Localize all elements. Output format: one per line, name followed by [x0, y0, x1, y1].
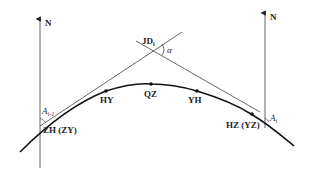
azimuth-arc-left	[40, 118, 46, 123]
hz-label: HZ (YZ)	[226, 120, 260, 130]
point-hy	[104, 89, 108, 93]
north-label-right: N	[270, 12, 277, 22]
jd-label: JDi	[142, 36, 155, 47]
north-label-left: N	[45, 18, 52, 28]
alpha-label: α	[167, 45, 172, 55]
hy-label: HY	[100, 95, 114, 105]
zh-label: ZH (ZY)	[43, 125, 77, 135]
tangent-line-left	[40, 32, 182, 126]
deflection-angle-arc	[162, 44, 164, 55]
point-qz	[149, 82, 153, 86]
azimuth-arc-right	[265, 118, 269, 122]
point-yh	[195, 89, 199, 93]
point-hz	[250, 112, 254, 116]
azimuth-left-label: Ai-1	[41, 106, 54, 117]
yh-label: YH	[188, 95, 202, 105]
curve-layout-diagram: N N JDi α HY QZ YH ZH (ZY) HZ (YZ) Ai-1 …	[0, 0, 310, 176]
qz-label: QZ	[144, 89, 157, 99]
azimuth-right-label: Ai	[269, 113, 278, 124]
